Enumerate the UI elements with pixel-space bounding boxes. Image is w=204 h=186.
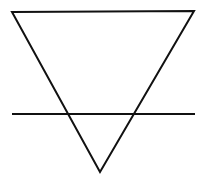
diagram-canvas bbox=[0, 0, 204, 186]
inverted-triangle bbox=[12, 11, 194, 172]
earth-symbol-icon bbox=[0, 0, 204, 186]
